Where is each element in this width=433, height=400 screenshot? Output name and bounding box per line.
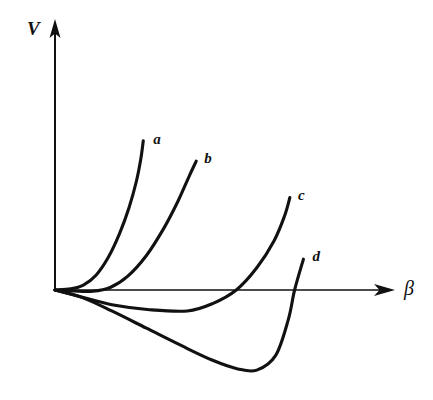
curve-label-d: d xyxy=(312,249,320,264)
curve-d xyxy=(55,259,303,371)
curve-a xyxy=(55,141,143,290)
plot-canvas xyxy=(0,0,433,400)
curve-label-c: c xyxy=(298,188,305,203)
y-axis-label: V xyxy=(27,19,40,38)
axes-group xyxy=(50,19,396,296)
curve-label-b: b xyxy=(204,151,212,166)
x-axis-label: β xyxy=(404,278,414,298)
curves-group xyxy=(55,141,303,371)
curve-label-a: a xyxy=(153,132,161,147)
curve-b xyxy=(55,161,196,291)
potential-energy-figure: V β a b c d xyxy=(0,0,433,400)
